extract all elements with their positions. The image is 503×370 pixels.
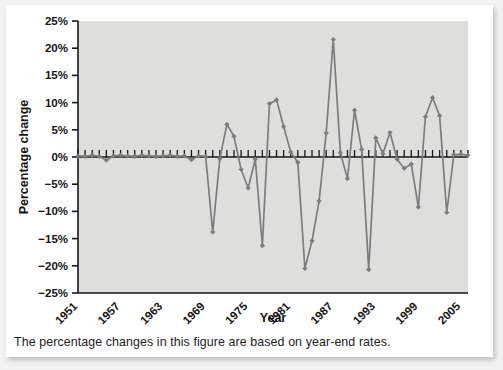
figure-caption: The percentage changes in this figure ar… — [14, 335, 484, 349]
x-axis-title: Year — [260, 311, 287, 325]
y-tick-label: 15% — [45, 69, 68, 81]
y-axis-title: Percentage change — [17, 100, 31, 215]
x-tick-label: 1951 — [53, 300, 80, 327]
y-tick-label: −5% — [45, 178, 68, 190]
x-tick-label: 1999 — [393, 300, 420, 327]
x-tick-label: 1993 — [351, 300, 378, 327]
y-tick-label: −15% — [38, 233, 68, 245]
line-chart: −25%−20%−15%−10%−5%0%5%10%15%20%25% 1951… — [6, 5, 493, 327]
y-tick-label: 10% — [45, 97, 68, 109]
x-tick-label: 1957 — [95, 300, 122, 327]
y-tick-label: −10% — [38, 205, 68, 217]
figure-card: −25%−20%−15%−10%−5%0%5%10%15%20%25% 1951… — [6, 5, 493, 357]
x-tick-label: 1987 — [308, 300, 335, 327]
x-tick-label: 1963 — [138, 300, 165, 327]
chart-plot-area: −25%−20%−15%−10%−5%0%5%10%15%20%25% 1951… — [6, 5, 493, 327]
x-tick-label: 1969 — [180, 300, 207, 327]
y-tick-label: −20% — [38, 260, 68, 272]
y-tick-label: 0% — [51, 151, 68, 163]
y-tick-group: −25%−20%−15%−10%−5%0%5%10%15%20%25% — [38, 15, 78, 299]
y-tick-label: −25% — [38, 287, 68, 299]
y-tick-label: 5% — [51, 124, 68, 136]
x-tick-label-group: 1951195719631969197519811987199319992005 — [53, 300, 463, 327]
y-tick-label: 25% — [45, 15, 68, 27]
x-tick-label: 1975 — [223, 300, 250, 327]
x-tick-label: 2005 — [436, 300, 463, 327]
y-tick-label: 20% — [45, 42, 68, 54]
